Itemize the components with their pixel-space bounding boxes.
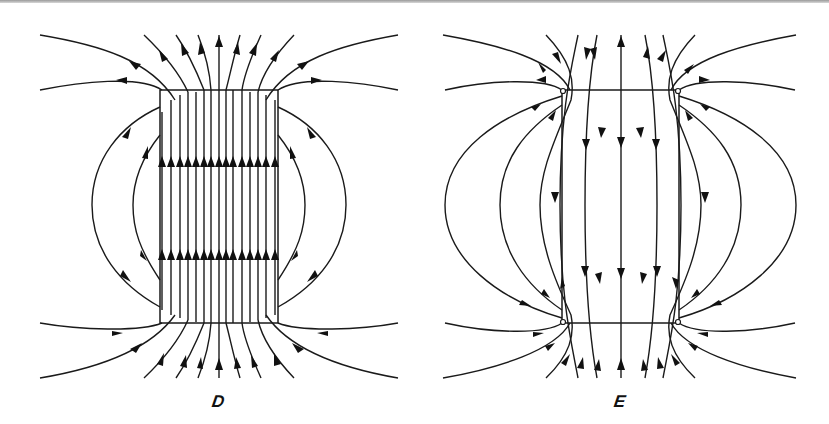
d-bottom-lines	[40, 315, 398, 378]
e-outer-lines	[443, 35, 796, 378]
e-central-lines	[540, 35, 701, 378]
field-diagram	[0, 0, 829, 424]
d-interior-lines	[162, 90, 275, 323]
panel-d	[40, 35, 398, 378]
panel-e	[443, 35, 796, 378]
